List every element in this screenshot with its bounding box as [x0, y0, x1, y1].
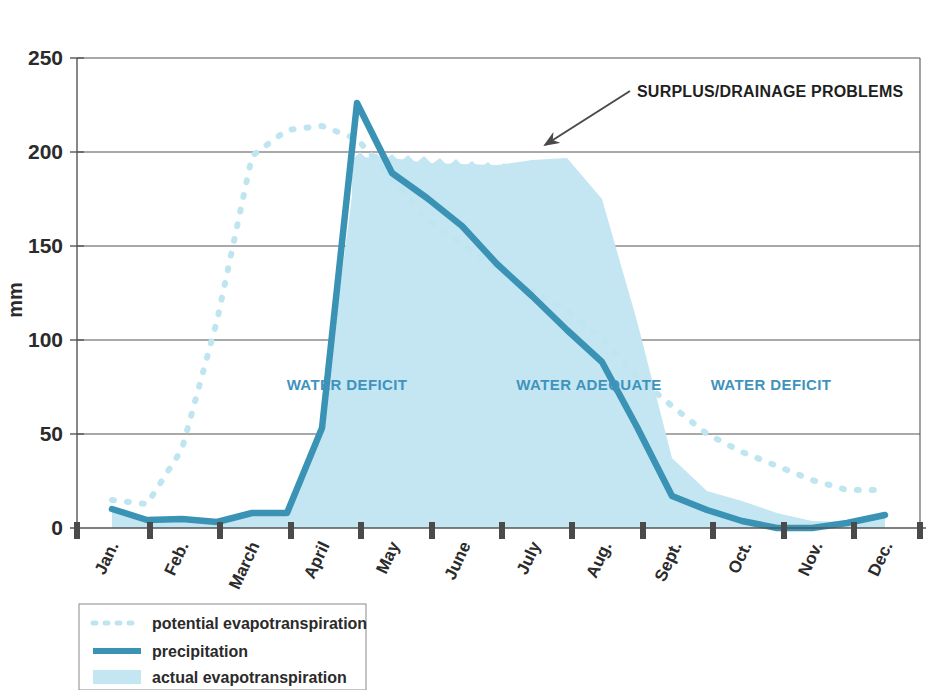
x-tick — [499, 522, 505, 539]
x-tick — [781, 522, 787, 539]
x-tick — [74, 522, 80, 539]
x-tick-label: June — [441, 539, 475, 583]
x-tick — [288, 522, 294, 539]
y-tick-label: 200 — [28, 140, 63, 163]
surplus-annotation: SURPLUS/DRAINAGE PROBLEMS — [545, 83, 903, 145]
water-adequate-label: WATER ADEQUATE — [516, 376, 661, 393]
y-axis-title: mm — [4, 282, 26, 318]
x-tick-label: Oct. — [724, 539, 755, 577]
x-tick-label: Dec. — [864, 539, 896, 580]
x-tick-label: Feb. — [161, 539, 193, 579]
water-deficit-left-label: WATER DEFICIT — [287, 376, 408, 393]
aet-area-path — [112, 157, 885, 528]
x-tick — [710, 522, 716, 539]
x-tick-label: July — [513, 538, 545, 577]
y-tick-label: 100 — [28, 328, 63, 351]
x-tick-label: Nov. — [794, 539, 826, 579]
x-tick-label: Sept. — [651, 539, 686, 585]
x-tick-label: April — [300, 539, 334, 582]
legend-item-label: potential evapotranspiration — [152, 615, 367, 632]
surplus-annotation-text: SURPLUS/DRAINAGE PROBLEMS — [637, 83, 903, 100]
legend-item-label: precipitation — [152, 643, 248, 660]
annotation-arrow — [545, 91, 630, 145]
x-tick-labels: Jan. Feb. March April May June July Aug.… — [91, 538, 897, 592]
y-tick-label: 250 — [28, 46, 63, 69]
water-deficit-right-label: WATER DEFICIT — [711, 376, 832, 393]
x-tick — [917, 522, 923, 539]
y-tick-label: 0 — [51, 516, 63, 539]
chart-figure: 250 200 150 100 50 0 mm Jan. Feb. March … — [0, 0, 952, 690]
filled-block-swatch — [93, 670, 141, 684]
legend-item-label: actual evapotranspiration — [152, 669, 347, 686]
x-tick — [358, 522, 364, 539]
x-tick-label: Jan. — [91, 539, 123, 578]
x-tick — [217, 522, 223, 539]
x-tick — [851, 522, 857, 539]
x-tick — [569, 522, 575, 539]
x-tick-label: Aug. — [582, 539, 615, 581]
y-tick-label: 50 — [40, 422, 63, 445]
x-tick — [640, 522, 646, 539]
legend: potential evapotranspiration precipitati… — [79, 604, 367, 690]
x-tick-label: May — [372, 538, 403, 576]
water-balance-chart: 250 200 150 100 50 0 mm Jan. Feb. March … — [0, 0, 952, 690]
zone-labels: WATER DEFICIT WATER ADEQUATE WATER DEFIC… — [287, 376, 832, 393]
y-tick-label: 150 — [28, 234, 63, 257]
x-tick — [429, 522, 435, 539]
y-axis-title-text: mm — [4, 282, 26, 318]
x-tick — [147, 522, 153, 539]
x-tick-label: March — [225, 539, 263, 592]
y-tick-labels: 250 200 150 100 50 0 — [28, 46, 63, 539]
